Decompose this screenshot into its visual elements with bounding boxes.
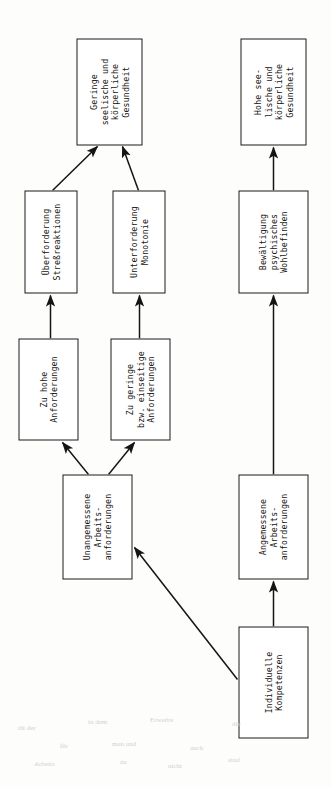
angemessene-arbeitsanforderungen-node[interactable]: Angemessene Arbeits- anforderungen: [238, 474, 308, 579]
ueberforderung-node[interactable]: Überforderung Streßreaktionen: [24, 190, 77, 293]
hohe-gesundheit-node[interactable]: Hohe see- lische und körperliche Gesundh…: [240, 38, 306, 145]
unterforderung-node[interactable]: Unterforderung Monotonie: [112, 190, 165, 293]
hohe-gesundheit-label: Hohe see- lische und körperliche Gesundh…: [252, 63, 294, 119]
scan-artifact-9: nicht: [168, 762, 182, 770]
geringe-gesundheit-label: Geringe seelische und körperliche Gesund…: [88, 58, 130, 125]
edge-individuelle-to-unangemessene: [134, 547, 237, 679]
scanned-page-canvas: Geringe seelische und körperliche Gesund…: [0, 0, 331, 787]
edge-ueberforderung-to-geringe-gesundheit: [52, 146, 97, 190]
scan-artifact-10: sind: [228, 756, 240, 764]
zu-geringe-anforderungen-node[interactable]: Zu geringe bzw. einseitige Anforderungen: [110, 338, 170, 440]
scan-artifact-5: men und: [112, 740, 136, 748]
unterforderung-label: Unterforderung Monotonie: [128, 206, 149, 278]
edge-unterforderung-to-geringe-gesundheit: [122, 146, 138, 190]
flowchart-stage: Geringe seelische und körperliche Gesund…: [0, 0, 331, 787]
individuelle-kompetenzen-node[interactable]: Individuelle Kompetenzen: [238, 626, 308, 738]
scan-artifact-0: tät der: [18, 724, 36, 732]
scan-artifact-1: in dem: [88, 718, 107, 726]
unangemessene-arbeitsanforderungen-node[interactable]: Unangemessene Arbeits- anforderungen: [62, 474, 132, 579]
ueberforderung-label: Überforderung Streßreaktionen: [40, 203, 61, 280]
unangemessene-arbeitsanforderungen-label: Unangemessene Arbeits- anforderungen: [81, 493, 113, 560]
geringe-gesundheit-node[interactable]: Geringe seelische und körperliche Gesund…: [76, 38, 142, 145]
bewaeltigung-label: Bewältigung psychisches Wohlbefinden: [257, 211, 289, 273]
edge-unangemessene-to-zu-hohe: [62, 442, 88, 474]
zu-hohe-anforderungen-label: Zu hohe Anforderungen: [38, 356, 59, 423]
bewaeltigung-node[interactable]: Bewältigung psychisches Wohlbefinden: [238, 190, 308, 293]
scan-artifact-8: zu: [120, 758, 127, 766]
scan-artifact-3: die: [232, 720, 241, 728]
angemessene-arbeitsanforderungen-label: Angemessene Arbeits- anforderungen: [257, 493, 289, 560]
individuelle-kompetenzen-label: Individuelle Kompetenzen: [263, 651, 284, 713]
edge-unangemessene-to-zu-geringe: [108, 442, 134, 474]
scan-artifact-6: auch: [190, 744, 203, 752]
scan-artifact-7: Arbeits: [34, 760, 55, 768]
zu-hohe-anforderungen-node[interactable]: Zu hohe Anforderungen: [18, 338, 78, 440]
scan-artifact-2: Erwerbs: [150, 716, 173, 724]
zu-geringe-anforderungen-label: Zu geringe bzw. einseitige Anforderungen: [124, 351, 156, 428]
scan-artifact-4: für: [60, 742, 68, 750]
